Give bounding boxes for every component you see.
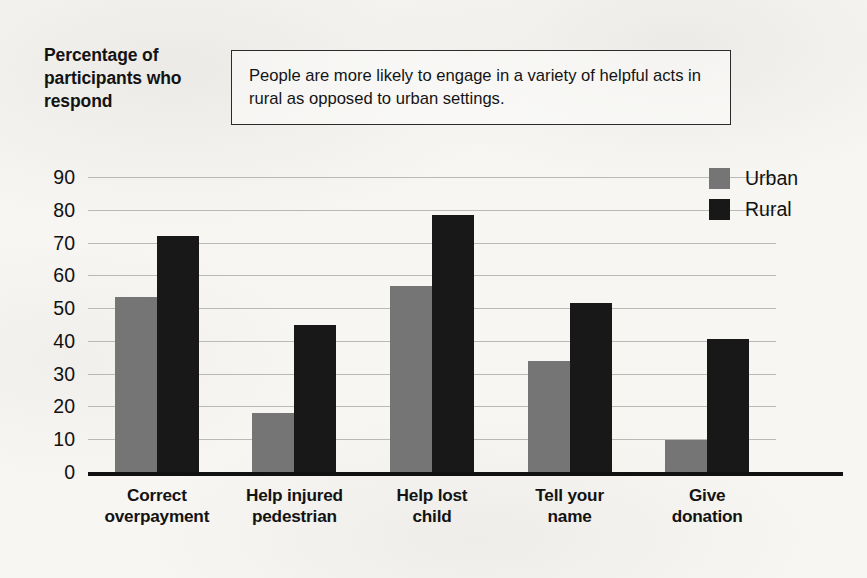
caption-text: People are more likely to engage in a va… <box>232 65 730 111</box>
legend-label-urban: Urban <box>745 167 798 190</box>
legend-swatch-urban-icon <box>709 168 730 189</box>
y-axis-tick-label: 90 <box>53 166 75 189</box>
bar-rural <box>432 215 474 472</box>
bar-rural <box>157 236 199 472</box>
y-axis-tick-label: 60 <box>53 264 75 287</box>
bar-urban <box>115 297 157 472</box>
y-axis-tick-label: 10 <box>53 428 75 451</box>
y-axis-tick-label: 30 <box>53 362 75 385</box>
plot-area: 9080706050403020100 CorrectoverpaymentHe… <box>88 177 776 472</box>
legend-item-rural: Rural <box>709 194 798 225</box>
y-axis-tick-label: 70 <box>53 231 75 254</box>
y-axis-tick-label: 40 <box>53 329 75 352</box>
bar-chart-figure: Percentage of participants who respond P… <box>0 0 867 578</box>
bar-urban <box>528 361 570 472</box>
legend-swatch-rural-icon <box>709 199 730 220</box>
caption-box: People are more likely to engage in a va… <box>231 50 731 125</box>
x-axis-category-label: Givedonation <box>625 485 790 527</box>
chart-legend: Urban Rural <box>709 163 798 225</box>
bar-group: Tell yourname <box>528 177 612 472</box>
bar-urban <box>665 440 707 472</box>
bar-rural <box>570 303 612 472</box>
x-axis-line <box>88 472 843 476</box>
y-axis-tick-label: 80 <box>53 198 75 221</box>
bar-rural <box>294 325 336 472</box>
y-axis-title: Percentage of participants who respond <box>44 44 219 112</box>
bar-rural <box>707 339 749 472</box>
legend-label-rural: Rural <box>745 198 792 221</box>
bar-urban <box>390 286 432 472</box>
y-axis-tick-label: 0 <box>64 461 75 484</box>
y-axis-tick-label: 50 <box>53 297 75 320</box>
bar-group: Help lostchild <box>390 177 474 472</box>
bar-group: Correctoverpayment <box>115 177 199 472</box>
bar-urban <box>252 413 294 472</box>
bar-group: Help injuredpedestrian <box>252 177 336 472</box>
y-axis-tick-label: 20 <box>53 395 75 418</box>
legend-item-urban: Urban <box>709 163 798 194</box>
